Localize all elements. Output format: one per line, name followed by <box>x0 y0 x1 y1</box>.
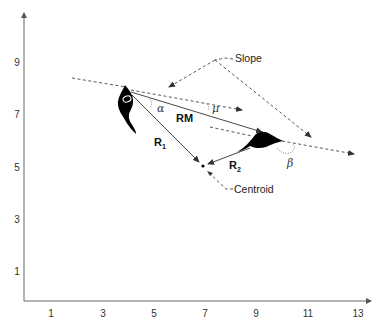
centroid-dot <box>201 164 204 167</box>
x-tick-9: 9 <box>253 308 259 319</box>
rm-vector <box>131 92 262 132</box>
x-tick-1: 1 <box>48 308 54 319</box>
y-tick-7: 7 <box>14 109 20 120</box>
r2-label: R2 <box>229 159 241 173</box>
y-tick-9: 9 <box>14 57 20 68</box>
mu-label: μ <box>212 102 219 115</box>
y-tick-5: 5 <box>14 162 20 173</box>
x-tick-13: 13 <box>352 308 364 319</box>
mu-arc <box>207 104 209 110</box>
alpha-arc <box>150 99 152 108</box>
slope-label: Slope <box>235 52 262 64</box>
cell-2 <box>237 132 283 152</box>
x-tick-11: 11 <box>303 308 314 319</box>
y-tick-labels: 9 7 5 3 1 <box>14 57 20 277</box>
r1-vector <box>132 95 199 162</box>
alpha-label: α <box>157 102 165 115</box>
y-tick-1: 1 <box>14 266 20 277</box>
x-tick-7: 7 <box>202 308 208 319</box>
beta-label: β <box>286 157 293 170</box>
axes <box>24 13 371 301</box>
x-tick-5: 5 <box>151 308 157 319</box>
diagram-canvas: 9 7 5 3 1 1 3 5 7 9 11 13 <box>0 0 384 324</box>
rm-label: RM <box>176 112 193 124</box>
centroid-pointer <box>208 172 233 189</box>
x-tick-3: 3 <box>100 308 106 319</box>
beta-arc <box>277 144 295 153</box>
slope-line <box>72 78 354 154</box>
centroid-arrowhead <box>207 171 213 176</box>
direction-line <box>131 90 242 110</box>
y-tick-3: 3 <box>14 214 20 225</box>
x-tick-labels: 1 3 5 7 9 11 13 <box>48 308 364 319</box>
cell-2-body <box>237 132 283 152</box>
centroid-label: Centroid <box>234 183 274 195</box>
r1-label: R1 <box>154 136 166 150</box>
